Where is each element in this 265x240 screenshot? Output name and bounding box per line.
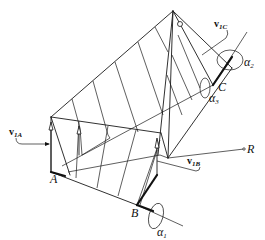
label-v1b: v1B xyxy=(187,155,201,168)
inner-line xyxy=(68,155,160,172)
hatch xyxy=(97,126,108,188)
v1a-leader-head xyxy=(45,142,50,146)
velocity-arrows xyxy=(49,22,183,176)
inner-line xyxy=(62,85,213,166)
structure-edges xyxy=(51,11,232,205)
label-c: C xyxy=(218,80,227,94)
hatch xyxy=(108,135,110,138)
label-alpha2: α2 xyxy=(244,55,254,70)
inner-line xyxy=(160,155,168,158)
inner-lines xyxy=(62,85,213,205)
label-b: B xyxy=(131,206,139,220)
link-b xyxy=(137,175,157,205)
leader-lines xyxy=(16,30,228,171)
hatch xyxy=(118,130,136,196)
kinematic-diagram: A B C R v1A v1B v1C α1 α2 α3 xyxy=(0,0,265,240)
hatch xyxy=(138,42,163,115)
hatch xyxy=(115,62,138,132)
apex-point xyxy=(178,22,183,27)
hatch xyxy=(178,35,200,88)
edge-mid-right xyxy=(161,133,168,158)
arrow-a-head xyxy=(49,122,53,130)
angle-loops xyxy=(146,50,243,230)
hatching-lines xyxy=(72,27,200,196)
arrow-mid-head xyxy=(77,126,81,134)
edge-left-diagonal xyxy=(51,117,70,175)
hatch xyxy=(155,27,168,52)
label-v1a: v1A xyxy=(9,126,23,139)
edge-top-left xyxy=(51,11,173,117)
hatch xyxy=(82,138,110,155)
line-to-r xyxy=(168,149,244,158)
label-a: A xyxy=(49,172,58,186)
edge-bottom xyxy=(51,172,137,205)
edge-mid-horizontal xyxy=(51,117,161,133)
point-r xyxy=(243,148,245,150)
hatch xyxy=(93,81,108,135)
arrow-b-head xyxy=(155,138,159,148)
label-r: R xyxy=(246,142,255,156)
edge-top-right xyxy=(173,11,232,68)
label-alpha1: α1 xyxy=(157,225,167,240)
label-v1c: v1C xyxy=(214,18,228,31)
